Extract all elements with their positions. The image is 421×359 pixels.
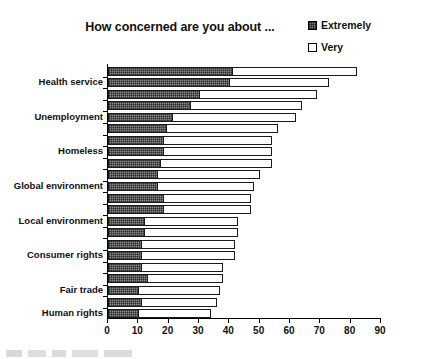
bar-segment-very (141, 298, 217, 307)
bar-row[interactable] (108, 251, 235, 260)
bar-row[interactable] (108, 182, 254, 191)
bar-row[interactable] (108, 309, 211, 318)
bar-segment-very (163, 136, 272, 145)
bar-row[interactable] (108, 170, 260, 179)
bar-segment-very (172, 113, 296, 122)
bar-segment-very (160, 159, 272, 168)
bar-row[interactable] (108, 298, 217, 307)
y-axis-tick (103, 285, 107, 286)
y-axis-tick (103, 169, 107, 170)
bar-segment-extremely (108, 274, 147, 283)
bar-row[interactable] (108, 217, 238, 226)
y-axis-tick (103, 135, 107, 136)
legend-item-extremely[interactable]: Extremely (308, 14, 418, 36)
bar-segment-very (138, 286, 220, 295)
bar-row[interactable] (108, 159, 272, 168)
legend-item-very[interactable]: Very (308, 36, 418, 58)
x-axis-tick (107, 318, 108, 323)
bar-segment-very (232, 67, 356, 76)
y-axis-label-fair-trade: Fair trade (0, 285, 103, 295)
y-axis-tick (103, 181, 107, 182)
x-axis-tick-label: 0 (92, 325, 122, 336)
bar-segment-extremely (108, 101, 190, 110)
bar-row[interactable] (108, 124, 278, 133)
bar-row[interactable] (108, 194, 251, 203)
plot-area: 0102030405060708090 (107, 64, 381, 318)
y-axis-tick (103, 100, 107, 101)
bar-row[interactable] (108, 147, 272, 156)
y-axis-tick (103, 227, 107, 228)
x-axis-tick-label: 90 (365, 325, 395, 336)
bar-row[interactable] (108, 101, 302, 110)
bar-row[interactable] (108, 228, 238, 237)
y-axis-tick (103, 262, 107, 263)
x-axis-tick-label: 70 (304, 325, 334, 336)
x-axis-tick-label: 40 (213, 325, 243, 336)
x-axis-tick-label: 10 (122, 325, 152, 336)
x-axis-tick (380, 318, 381, 323)
bar-segment-extremely (108, 217, 144, 226)
bar-segment-extremely (108, 251, 141, 260)
x-axis-tick (259, 318, 260, 323)
bar-row[interactable] (108, 263, 223, 272)
bar-segment-extremely (108, 228, 144, 237)
y-axis-tick (103, 204, 107, 205)
bar-segment-extremely (108, 286, 138, 295)
bar-segment-very (157, 170, 260, 179)
bar-segment-extremely (108, 90, 199, 99)
bar-segment-extremely (108, 113, 172, 122)
x-axis-tick-label: 30 (183, 325, 213, 336)
x-axis-tick-label: 20 (153, 325, 183, 336)
bar-row[interactable] (108, 240, 235, 249)
y-axis-label-global-environment: Global environment (0, 181, 103, 191)
bar-segment-very (163, 194, 251, 203)
bar-segment-very (163, 205, 251, 214)
x-axis-tick-label: 50 (244, 325, 274, 336)
y-axis-tick (103, 77, 107, 78)
bar-segment-extremely (108, 170, 157, 179)
bar-row[interactable] (108, 113, 296, 122)
bar-segment-extremely (108, 182, 157, 191)
y-axis-tick (103, 250, 107, 251)
x-axis-tick (137, 318, 138, 323)
y-axis-label-consumer-rights: Consumer rights (0, 250, 103, 260)
bar-segment-extremely (108, 205, 163, 214)
x-axis-tick (319, 318, 320, 323)
y-axis-tick (103, 238, 107, 239)
bar-segment-extremely (108, 67, 232, 76)
bar-segment-extremely (108, 78, 229, 87)
y-axis-tick (103, 88, 107, 89)
x-axis-tick (228, 318, 229, 323)
bar-row[interactable] (108, 205, 251, 214)
bar-segment-extremely (108, 194, 163, 203)
bar-segment-very (141, 263, 223, 272)
legend-label-very: Very (321, 41, 343, 53)
x-axis-tick (350, 318, 351, 323)
bar-row[interactable] (108, 90, 317, 99)
x-axis-tick (198, 318, 199, 323)
bar-row[interactable] (108, 78, 329, 87)
y-axis-tick (103, 273, 107, 274)
bar-row[interactable] (108, 274, 223, 283)
bar-segment-very (144, 217, 238, 226)
concern-bar-chart: How concerned are you about ... Extremel… (0, 0, 421, 359)
bar-row[interactable] (108, 67, 357, 76)
y-axis-tick (103, 296, 107, 297)
bar-segment-very (138, 309, 211, 318)
bar-segment-very (157, 182, 254, 191)
bar-row[interactable] (108, 286, 220, 295)
x-axis-tick (289, 318, 290, 323)
y-axis-tick (103, 146, 107, 147)
y-axis-category-labels: Health serviceUnemploymentHomelessGlobal… (0, 64, 103, 318)
y-axis-label-homeless: Homeless (0, 146, 103, 156)
x-axis-line (107, 318, 381, 319)
bar-segment-very (190, 101, 302, 110)
y-axis-label-local-environment: Local environment (0, 216, 103, 226)
y-axis-tick (103, 111, 107, 112)
y-axis-tick (103, 308, 107, 309)
chart-legend: Extremely Very (308, 14, 418, 58)
bar-segment-very (147, 274, 223, 283)
footer-caption-strip (6, 350, 156, 357)
chart-title: How concerned are you about ... (55, 20, 305, 34)
bar-row[interactable] (108, 136, 272, 145)
